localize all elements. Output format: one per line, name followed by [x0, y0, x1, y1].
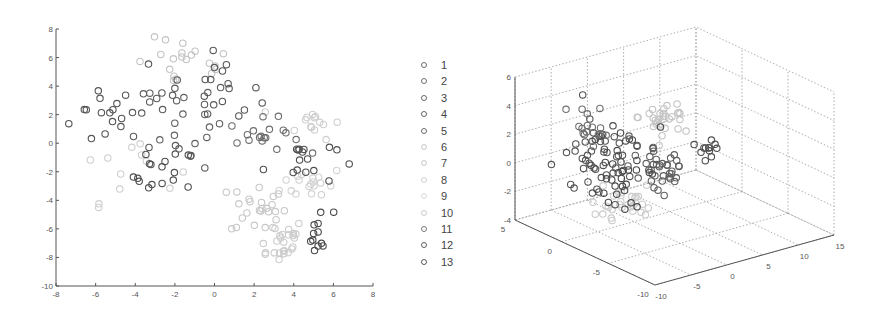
- data-point: [262, 224, 268, 230]
- x-tick-label-3d: 15: [836, 242, 845, 251]
- data-point: [118, 123, 124, 129]
- data-point: [122, 92, 128, 98]
- data-point: [311, 247, 317, 253]
- data-point: [172, 85, 178, 91]
- data-point-3d: [563, 106, 569, 112]
- legend-entry: 11: [416, 223, 476, 237]
- legend-label: 10: [441, 207, 453, 219]
- circle-marker-icon: [421, 78, 427, 84]
- data-point: [185, 184, 191, 190]
- x-tick-label: -8: [52, 290, 60, 299]
- data-point: [304, 156, 310, 162]
- data-point-3d: [612, 183, 618, 189]
- data-point-3d: [585, 179, 591, 185]
- data-point: [181, 94, 187, 100]
- data-point: [296, 220, 302, 226]
- circle-marker-icon: [421, 177, 427, 183]
- data-point: [234, 189, 240, 195]
- data-point: [192, 48, 198, 54]
- data-point-3d: [661, 192, 667, 198]
- data-point: [88, 135, 94, 141]
- data-point: [143, 151, 149, 157]
- data-point-3d: [702, 158, 708, 164]
- data-point: [217, 84, 223, 90]
- data-point: [275, 113, 281, 119]
- y-tick-label-3d: 5: [501, 225, 506, 234]
- data-point-3d: [580, 92, 586, 98]
- data-point: [179, 50, 185, 56]
- data-point: [98, 110, 104, 116]
- data-point-3d: [674, 101, 680, 107]
- legend-label: 1: [441, 59, 447, 71]
- x-tick-label-3d: 5: [766, 262, 771, 271]
- data-point: [180, 40, 186, 46]
- data-point: [317, 180, 323, 186]
- x-tick-label: 0: [212, 290, 217, 299]
- data-point: [220, 51, 226, 57]
- data-point: [147, 90, 153, 96]
- x-tick-label-3d: 0: [730, 272, 735, 281]
- data-point-3d: [617, 130, 623, 136]
- legend-entry: 5: [416, 125, 476, 139]
- data-point-3d: [600, 183, 606, 189]
- data-point-3d: [656, 142, 662, 148]
- data-point-3d: [592, 211, 598, 217]
- y-axis-3d: [515, 220, 655, 285]
- data-point: [188, 52, 194, 58]
- y-tick-label-3d: -5: [593, 268, 601, 277]
- legend-entry: 12: [416, 239, 476, 253]
- data-point: [139, 110, 145, 116]
- data-point: [334, 119, 340, 125]
- data-point: [171, 169, 177, 175]
- data-point: [216, 121, 222, 127]
- legend-label: 12: [441, 239, 453, 251]
- data-point: [201, 93, 207, 99]
- y-tick-label: -6: [46, 225, 54, 234]
- data-point: [173, 98, 179, 104]
- data-point: [272, 225, 278, 231]
- circle-marker-icon: [421, 210, 427, 216]
- y-tick-label: 4: [49, 82, 54, 91]
- legend-label: 9: [441, 190, 447, 202]
- legend-label: 11: [441, 223, 452, 235]
- data-point-3d: [634, 204, 640, 210]
- y-tick-label: -2: [46, 168, 54, 177]
- data-point: [172, 120, 178, 126]
- legend-entry: 8: [416, 174, 476, 188]
- data-point: [210, 47, 216, 53]
- data-point: [334, 167, 340, 173]
- legend-entry: 6: [416, 141, 476, 155]
- legend-label: 8: [441, 174, 447, 186]
- y-tick-label: -10: [41, 282, 53, 291]
- data-point-3d: [616, 140, 622, 146]
- legend-entry: 3: [416, 92, 476, 106]
- z-tick-label: -2: [504, 187, 512, 196]
- data-point: [201, 101, 207, 107]
- data-point: [159, 180, 165, 186]
- scatter-3d-plot: -4-20246-10-505-10-5051015: [501, 27, 845, 301]
- legend-entry: 7: [416, 157, 476, 171]
- data-point-3d: [563, 149, 569, 155]
- legend-entry: 13: [416, 256, 476, 270]
- data-point: [223, 189, 229, 195]
- circle-marker-icon: [421, 242, 427, 248]
- data-point-3d: [675, 126, 681, 132]
- data-point: [293, 191, 299, 197]
- circle-marker-icon: [421, 62, 427, 68]
- data-point: [192, 140, 198, 146]
- data-point: [205, 89, 211, 95]
- data-point: [290, 244, 296, 250]
- legend-label: 3: [441, 92, 447, 104]
- x-tick-label-3d: 10: [800, 252, 809, 261]
- data-point-3d: [572, 148, 578, 154]
- data-point: [204, 134, 210, 140]
- data-point: [114, 100, 120, 106]
- data-point: [234, 140, 240, 146]
- data-point: [130, 174, 136, 180]
- data-point: [244, 210, 250, 216]
- legend-label: 5: [441, 125, 447, 137]
- z-tick-label: 6: [507, 73, 512, 82]
- data-point: [87, 157, 93, 163]
- data-point: [146, 144, 152, 150]
- data-point: [283, 177, 289, 183]
